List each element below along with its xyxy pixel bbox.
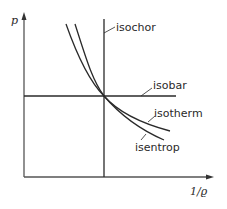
isochor-label: isochor [116,21,156,34]
isochor-leader [104,27,115,33]
isentrop-label: isentrop [135,141,180,154]
state-diagram: p 1/ϱ isochor isobar isotherm isentrop [0,0,227,209]
x-axis-label: 1/ϱ [190,185,208,198]
y-axis-arrow-icon [22,12,27,20]
isobar-leader [141,88,152,96]
isotherm-label: isotherm [154,107,203,120]
x-axis-arrow-icon [206,175,214,180]
isobar-label: isobar [153,79,187,92]
y-axis-label: p [11,14,18,27]
isentrop-leader [141,134,146,140]
